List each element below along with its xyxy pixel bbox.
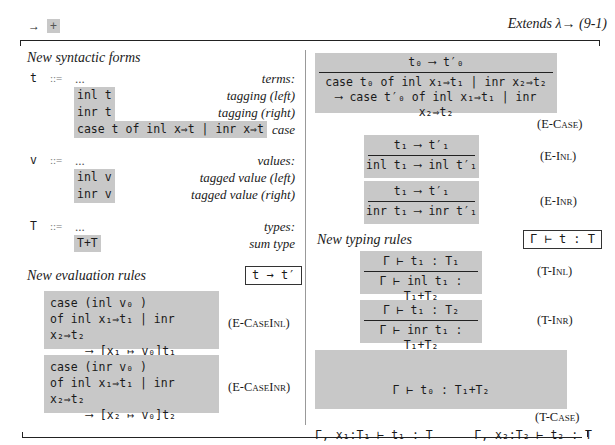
grammar-def: ::= <box>50 70 62 87</box>
rule-name: (E-CaseInr) <box>228 380 290 395</box>
grammar-form: inl t <box>74 87 115 104</box>
rule-premise: t₀ ⟶ t′₀ <box>315 55 557 70</box>
rule-premise: Γ ⊢ t₁ : T₁ <box>360 254 482 269</box>
frame-top-rule <box>20 40 600 41</box>
inference-line <box>368 201 475 202</box>
header-left: → + <box>28 19 60 34</box>
rule-name: (E-CaseInl) <box>228 316 290 331</box>
grammar-symbol: t <box>30 70 37 87</box>
grammar-def: ::= <box>50 218 62 235</box>
figure-caption: Extends λ→ (9-1) <box>508 16 607 32</box>
typing-judgment-box: Γ ⊢ t : T <box>523 230 602 249</box>
rule-conclusion: case t₀ of inl x₁⇒t₁ | inr x₂⇒t₂ <box>315 75 557 90</box>
grammar-desc: case <box>272 121 295 138</box>
syntax-title: New syntactic forms <box>27 50 141 66</box>
rule-line: case (inl v₀ ) <box>50 295 213 311</box>
rule-premise: t₁ ⟶ t′₁ <box>364 184 479 199</box>
grammar-symbol: T <box>30 218 37 235</box>
grammar-form: T+T <box>74 235 101 252</box>
grammar-ellipsis: ... <box>75 70 85 87</box>
frame-corner <box>22 432 23 437</box>
rule-conclusion: inr t₁ ⟶ inr t′₁ <box>364 204 479 219</box>
grammar-def: ::= <box>50 152 62 169</box>
typing-title: New typing rules <box>317 232 412 248</box>
rule-t-inl: Γ ⊢ t₁ : T₁ Γ ⊢ inl t₁ : T₁+T₂ <box>360 251 482 294</box>
grammar-symbol: v <box>30 152 37 169</box>
rule-e-inr: t₁ ⟶ t′₁ inr t₁ ⟶ inr t′₁ <box>364 181 479 224</box>
plus-icon: + <box>47 19 60 33</box>
evaluation-judgment-box: t → t′ <box>245 266 302 285</box>
column-divider <box>305 50 306 425</box>
grammar-category: values: <box>257 152 295 169</box>
rule-premise: Γ ⊢ t₁ : T₂ <box>360 303 482 318</box>
grammar-ellipsis: ... <box>75 218 85 235</box>
grammar-form: inr v <box>74 186 115 203</box>
grammar-form: inr t <box>74 104 115 121</box>
grammar-desc: tagged value (left) <box>200 169 295 186</box>
rule-e-case: t₀ ⟶ t′₀ case t₀ of inl x₁⇒t₁ | inr x₂⇒t… <box>315 53 557 113</box>
grammar-category: types: <box>264 218 295 235</box>
rule-line: of inl x₁⇒t₁ | inr x₂⇒t₂ <box>50 375 213 407</box>
grammar-form: case t of inl x⇒t | inr x⇒t <box>74 121 267 138</box>
rule-conclusion: Γ ⊢ inr t₁ : T₁+T₂ <box>360 323 482 353</box>
grammar-form: inl v <box>74 169 115 186</box>
rule-t-case: Γ ⊢ t₀ : T₁+T₂ Γ, x₁:T₁ ⊢ t₁ : T Γ, x₂:T… <box>315 350 567 409</box>
rule-e-caseinr: case (inr v₀ ) of inl x₁⇒t₁ | inr x₂⇒t₂ … <box>44 355 219 413</box>
arrow-icon: → <box>28 19 40 33</box>
evaluation-title: New evaluation rules <box>27 268 146 284</box>
rule-name: (T-Case) <box>535 410 579 425</box>
grammar-desc: tagging (right) <box>218 104 295 121</box>
grammar-category: terms: <box>262 70 295 87</box>
rule-name: (T-Inr) <box>537 313 573 328</box>
grammar-desc: sum type <box>249 235 295 252</box>
rule-line: of inl x₁⇒t₁ | inr x₂⇒t₂ <box>50 311 213 343</box>
rule-line: ⟶ [x₂ ↦ v₀]t₂ <box>50 407 213 423</box>
rule-name: (E-Inr) <box>540 194 577 209</box>
inference-line <box>319 72 553 73</box>
grammar-desc: tagged value (right) <box>191 186 295 203</box>
rule-e-caseinl: case (inl v₀ ) of inl x₁⇒t₁ | inr x₂⇒t₂ … <box>44 291 219 349</box>
inference-line <box>364 271 478 272</box>
rule-premise: t₁ ⟶ t′₁ <box>364 138 479 153</box>
grammar-ellipsis: ... <box>75 152 85 169</box>
rule-e-inl: t₁ ⟶ t′₁ inl t₁ ⟶ inl t′₁ <box>364 135 479 178</box>
rule-t-inr: Γ ⊢ t₁ : T₂ Γ ⊢ inr t₁ : T₁+T₂ <box>360 300 482 343</box>
frame-corner <box>20 40 21 46</box>
frame-corner <box>599 40 600 46</box>
rule-name: (E-Inl) <box>540 149 576 164</box>
inference-line <box>368 155 475 156</box>
rule-conclusion: ⟶ case t′₀ of inl x₁⇒t₁ | inr x₂⇒t₂ <box>315 90 557 120</box>
rule-premise: Γ ⊢ t₀ : T₁+T₂ <box>315 383 567 398</box>
rule-name: (T-Inl) <box>537 264 572 279</box>
rule-name: (E-Case) <box>537 117 582 132</box>
grammar-desc: tagging (left) <box>227 87 295 104</box>
inference-line <box>364 320 478 321</box>
rule-conclusion: inl t₁ ⟶ inl t′₁ <box>364 158 479 173</box>
rule-premise: Γ, x₁:T₁ ⊢ t₁ : T Γ, x₂:T₂ ⊢ t₂ : T <box>315 428 567 443</box>
rule-line: case (inr v₀ ) <box>50 359 213 375</box>
